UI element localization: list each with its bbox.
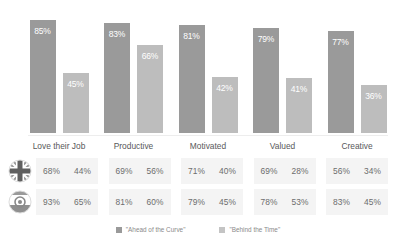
cell-value: 68% (36, 166, 67, 176)
chart-legend: "Ahead of the Curve" "Behind the Time" (0, 226, 396, 233)
chart-baseline (28, 135, 388, 136)
category-label-love-their-job: Love their Job (28, 139, 90, 154)
bar-value-label: 36% (361, 91, 387, 101)
table-row-cells: 68% 44% 69% 56% 71% 40% 69% 28% 56% 34 (36, 158, 396, 184)
cell-group-love-their-job: 68% 44% (36, 158, 98, 184)
cell-value: 53% (285, 197, 316, 207)
cell-value: 40% (212, 166, 243, 176)
table-row: 93% 65% 81% 60% 79% 45% 78% 53% 83% 45 (0, 188, 396, 216)
legend-label: "Ahead of the Curve" (126, 226, 186, 233)
cell-value: 83% (326, 197, 357, 207)
category-labels: Love their Job Productive Motivated Valu… (28, 139, 388, 154)
bar-behind-creative[interactable]: 36% (361, 85, 387, 133)
category-label-motivated: Motivated (177, 139, 239, 154)
bar-value-label: 45% (63, 79, 89, 89)
cell-value: 34% (357, 166, 388, 176)
cell-value: 28% (285, 166, 316, 176)
bar-value-label: 42% (212, 83, 238, 93)
cell-group-motivated: 79% 45% (181, 189, 243, 215)
cell-value: 71% (181, 166, 212, 176)
bar-value-label: 83% (104, 29, 130, 39)
bar-group-motivated: 81% 42% (177, 0, 239, 133)
japan-flag-icon (4, 189, 36, 215)
bar-value-label: 79% (253, 34, 279, 44)
comparison-table: 68% 44% 69% 56% 71% 40% 69% 28% 56% 34 (0, 157, 396, 219)
cell-value: 56% (140, 166, 171, 176)
legend-item-ahead-of-the-curve[interactable]: "Ahead of the Curve" (116, 226, 186, 233)
cell-group-creative: 56% 34% (326, 158, 388, 184)
cell-value: 44% (67, 166, 98, 176)
bar-value-label: 81% (179, 31, 205, 41)
cell-value: 65% (67, 197, 98, 207)
table-row: 68% 44% 69% 56% 71% 40% 69% 28% 56% 34 (0, 157, 396, 185)
bar-behind-productive[interactable]: 66% (137, 45, 163, 133)
cell-value: 56% (326, 166, 357, 176)
legend-item-behind-the-time[interactable]: "Behind the Time" (219, 226, 280, 233)
cell-value: 69% (254, 166, 285, 176)
bar-ahead-productive[interactable]: 83% (104, 23, 130, 133)
bar-ahead-motivated[interactable]: 81% (179, 25, 205, 133)
cell-value: 45% (357, 197, 388, 207)
bar-group-love-their-job: 85% 45% (28, 0, 90, 133)
table-row-cells: 93% 65% 81% 60% 79% 45% 78% 53% 83% 45 (36, 189, 396, 215)
bar-group-valued: 79% 41% (252, 0, 314, 133)
cell-value: 45% (212, 197, 243, 207)
chart-plot-area: 85% 45% 83% 66% 81% 42% (0, 0, 396, 136)
cell-value: 78% (254, 197, 285, 207)
cell-value: 79% (181, 197, 212, 207)
bar-ahead-valued[interactable]: 79% (253, 28, 279, 133)
cell-group-productive: 69% 56% (109, 158, 171, 184)
category-label-productive: Productive (103, 139, 165, 154)
cell-group-valued: 78% 53% (254, 189, 316, 215)
category-label-creative: Creative (326, 139, 388, 154)
cell-group-creative: 83% 45% (326, 189, 388, 215)
legend-swatch-icon (116, 227, 122, 233)
cell-value: 81% (109, 197, 140, 207)
legend-swatch-icon (219, 227, 225, 233)
bar-group-creative: 77% 36% (326, 0, 388, 133)
bar-behind-valued[interactable]: 41% (286, 78, 312, 133)
bar-chart-infographic: 85% 45% 83% 66% 81% 42% (0, 0, 396, 247)
cell-group-valued: 69% 28% (254, 158, 316, 184)
cell-group-love-their-job: 93% 65% (36, 189, 98, 215)
cell-value: 60% (140, 197, 171, 207)
category-label-valued: Valued (252, 139, 314, 154)
bar-value-label: 41% (286, 84, 312, 94)
uk-flag-icon (4, 158, 36, 184)
bar-groups: 85% 45% 83% 66% 81% 42% (28, 0, 388, 133)
bar-value-label: 77% (328, 37, 354, 47)
bar-ahead-creative[interactable]: 77% (328, 31, 354, 133)
bar-behind-motivated[interactable]: 42% (212, 77, 238, 133)
bar-group-productive: 83% 66% (103, 0, 165, 133)
legend-label: "Behind the Time" (229, 226, 280, 233)
cell-value: 69% (109, 166, 140, 176)
bar-behind-love-their-job[interactable]: 45% (63, 73, 89, 133)
cell-group-motivated: 71% 40% (181, 158, 243, 184)
cell-group-productive: 81% 60% (109, 189, 171, 215)
cell-value: 93% (36, 197, 67, 207)
bar-value-label: 85% (30, 26, 56, 36)
bar-value-label: 66% (137, 51, 163, 61)
bar-ahead-love-their-job[interactable]: 85% (30, 20, 56, 133)
